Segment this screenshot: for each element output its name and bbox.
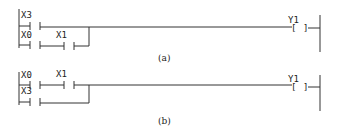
contact-label-x3: X3 (21, 86, 32, 96)
ladder-diagrams: X3 X0 X1 Y1 [ ] (a) X0 X1 (0, 0, 338, 133)
caption-a: (a) (158, 53, 170, 63)
contact-label-x0: X0 (21, 70, 32, 80)
coil-open-bracket: [ (291, 82, 296, 92)
coil-close-bracket: ] (303, 23, 308, 33)
ladder-diagram-a: X3 X0 X1 Y1 [ ] (a) (19, 9, 320, 63)
contact-label-x1: X1 (56, 30, 67, 40)
caption-b: (b) (158, 116, 171, 126)
contact-label-x3: X3 (21, 10, 32, 20)
coil-close-bracket: ] (303, 82, 308, 92)
ladder-diagram-b: X0 X1 X3 Y1 [ ] (b) (19, 69, 320, 126)
contact-label-x0: X0 (21, 30, 32, 40)
coil-open-bracket: [ (291, 23, 296, 33)
contact-label-x1: X1 (56, 69, 67, 79)
